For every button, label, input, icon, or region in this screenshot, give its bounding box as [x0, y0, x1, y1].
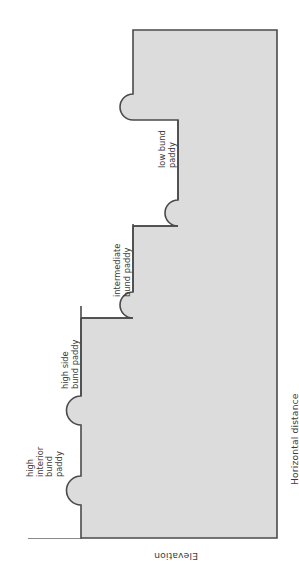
x-axis-label: Horizontal distance [289, 393, 299, 485]
y-axis-label: Elevation [154, 551, 198, 562]
annotation-line: bund paddy [71, 340, 81, 389]
annotation-intermediate-bund-paddy: intermediate bund paddy [113, 244, 132, 297]
annotation-high-interior-bund-paddy: high interior bund paddy [26, 447, 65, 477]
annotation-line: paddy [55, 447, 65, 477]
terrace-cross-section-figure [0, 0, 299, 583]
annotation-high-side-bund-paddy: high side bund paddy [61, 340, 80, 389]
annotation-line: bund paddy [123, 244, 133, 297]
terrace-profile-shape [67, 30, 278, 538]
annotation-line: paddy [168, 130, 178, 168]
annotation-low-bund-paddy: low bund paddy [158, 130, 177, 168]
